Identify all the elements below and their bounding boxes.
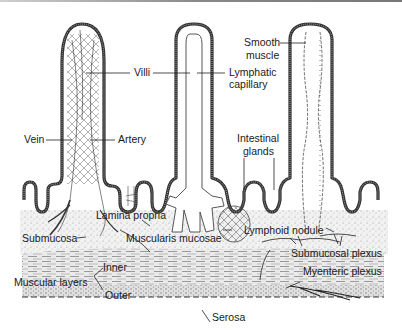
label-inner: Inner	[103, 262, 127, 273]
label-vein: Vein	[24, 134, 44, 145]
label-lymphatic-capillary-line1: Lymphatic	[229, 67, 276, 78]
label-intestinal-glands-line2: glands	[243, 146, 274, 157]
label-outer: Outer	[105, 290, 131, 301]
label-muscularis-mucosae: Muscularis mucosae	[126, 233, 222, 244]
capillary-network	[48, 30, 118, 236]
label-serosa: Serosa	[212, 312, 245, 323]
label-lamina-propria: Lamina propria	[96, 210, 166, 221]
label-submucosa: Submucosa	[22, 233, 77, 244]
label-intestinal-glands-line1: Intestinal	[237, 133, 279, 144]
label-smooth-muscle-line1: Smooth	[244, 37, 280, 48]
label-artery: Artery	[118, 134, 146, 145]
label-submucosal-plexus: Submucosal plexus	[291, 248, 382, 259]
villi-diagram: Villi Lymphatic capillary Smooth muscle …	[0, 0, 402, 332]
label-muscular-layers: Muscular layers	[14, 277, 88, 288]
label-lymphatic-capillary-line2: capillary	[229, 79, 268, 90]
label-villi: Villi	[134, 67, 150, 78]
label-myenteric-plexus: Myenteric plexus	[303, 266, 382, 277]
label-smooth-muscle-line2: muscle	[246, 50, 279, 61]
label-lymphoid-nodule: Lymphoid nodule	[244, 225, 324, 236]
